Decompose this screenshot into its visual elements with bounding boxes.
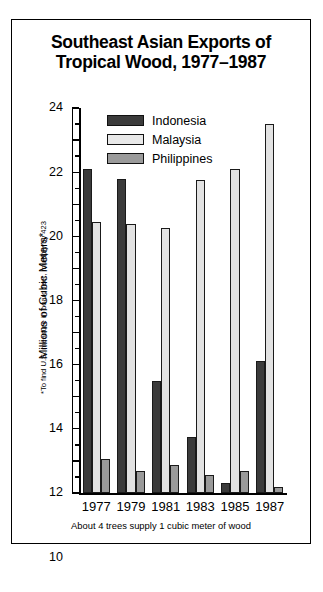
y-tick-label-10: 10 bbox=[49, 550, 63, 564]
bar-malaysia-1979 bbox=[126, 224, 135, 494]
legend-item-philippines: Philippines bbox=[107, 150, 212, 167]
y-tick-21 bbox=[75, 155, 80, 156]
x-tick-label-1983: 1983 bbox=[186, 499, 215, 514]
y-tick-3 bbox=[75, 444, 80, 445]
chart-title-line-2: Tropical Wood, 1977–1987 bbox=[12, 52, 310, 72]
legend-item-malaysia: Malaysia bbox=[107, 131, 212, 148]
y-axis-line bbox=[79, 108, 81, 493]
y-axis-footnote: *To find U.S. measure in board feet, mul… bbox=[39, 113, 48, 503]
chart-legend: Indonesia Malaysia Philippines bbox=[107, 112, 212, 169]
y-tick-13 bbox=[75, 284, 80, 285]
legend-label-indonesia: Indonesia bbox=[152, 114, 206, 128]
x-axis-line bbox=[79, 493, 287, 495]
y-tick-15 bbox=[75, 252, 80, 253]
bar-malaysia-1985 bbox=[230, 169, 239, 493]
chart-figure: Southeast Asian Exports of Tropical Wood… bbox=[11, 19, 311, 544]
y-tick-1 bbox=[75, 476, 80, 477]
bar-philippines-1985 bbox=[240, 471, 249, 493]
bar-malaysia-1983 bbox=[196, 180, 205, 493]
y-axis-tick-spine bbox=[72, 108, 73, 493]
y-tick-label-20: 20 bbox=[49, 229, 63, 243]
bar-indonesia-1983 bbox=[187, 437, 196, 493]
x-tick-label-1985: 1985 bbox=[221, 499, 250, 514]
y-tick-5 bbox=[75, 412, 80, 413]
x-tick-label-1981: 1981 bbox=[151, 499, 180, 514]
bar-indonesia-1987 bbox=[256, 361, 265, 493]
chart-caption: About 4 trees supply 1 cubic meter of wo… bbox=[12, 520, 310, 531]
legend-swatch-malaysia bbox=[107, 134, 144, 145]
bar-malaysia-1981 bbox=[161, 228, 170, 493]
legend-swatch-philippines bbox=[107, 153, 144, 164]
y-tick-9 bbox=[75, 348, 80, 349]
y-tick-23 bbox=[75, 123, 80, 124]
bar-philippines-1983 bbox=[205, 475, 214, 493]
bar-philippines-1981 bbox=[170, 465, 179, 493]
bar-indonesia-1981 bbox=[152, 381, 161, 493]
bar-philippines-1987 bbox=[274, 487, 283, 493]
y-tick-label-16: 16 bbox=[49, 357, 63, 371]
bar-philippines-1979 bbox=[136, 471, 145, 493]
bar-malaysia-1977 bbox=[92, 222, 101, 493]
bar-philippines-1977 bbox=[101, 459, 110, 493]
y-tick-19 bbox=[75, 188, 80, 189]
y-tick-label-22: 22 bbox=[49, 165, 63, 179]
legend-item-indonesia: Indonesia bbox=[107, 112, 212, 129]
legend-label-malaysia: Malaysia bbox=[152, 133, 201, 147]
legend-swatch-indonesia bbox=[107, 115, 144, 126]
bar-indonesia-1979 bbox=[117, 179, 126, 493]
bar-indonesia-1985 bbox=[221, 483, 230, 493]
y-tick-11 bbox=[75, 316, 80, 317]
x-tick-label-1987: 1987 bbox=[255, 499, 284, 514]
y-tick-7 bbox=[75, 380, 80, 381]
bar-indonesia-1977 bbox=[83, 169, 92, 493]
chart-title: Southeast Asian Exports of Tropical Wood… bbox=[12, 32, 310, 73]
y-tick-17 bbox=[75, 220, 80, 221]
x-tick-label-1979: 1979 bbox=[117, 499, 146, 514]
legend-label-philippines: Philippines bbox=[152, 152, 212, 166]
y-tick-label-12: 12 bbox=[49, 485, 63, 499]
y-tick-label-24: 24 bbox=[49, 100, 63, 114]
bar-malaysia-1987 bbox=[265, 124, 274, 493]
x-tick-label-1977: 1977 bbox=[82, 499, 111, 514]
y-tick-label-18: 18 bbox=[49, 293, 63, 307]
chart-title-line-1: Southeast Asian Exports of bbox=[12, 32, 310, 52]
y-tick-label-14: 14 bbox=[49, 421, 63, 435]
